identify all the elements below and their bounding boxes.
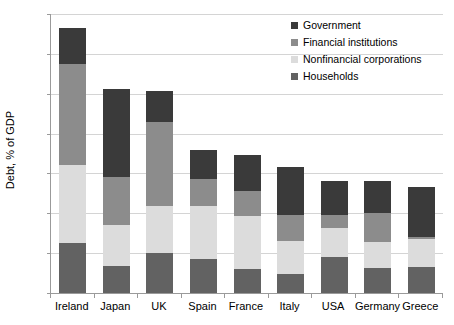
- bar-segment[interactable]: [408, 267, 435, 293]
- legend-label: Financial institutions: [303, 37, 398, 48]
- bar-group[interactable]: [146, 14, 173, 293]
- legend-swatch-icon: [291, 39, 298, 46]
- bar-segment[interactable]: [321, 215, 348, 229]
- bar-segment[interactable]: [277, 215, 304, 241]
- bar-segment[interactable]: [59, 28, 86, 64]
- bar-segment[interactable]: [146, 206, 173, 253]
- bar-segment[interactable]: [59, 165, 86, 243]
- x-axis-label: France: [224, 300, 268, 312]
- bar-segment[interactable]: [190, 206, 217, 259]
- bar-group[interactable]: [59, 14, 86, 293]
- bar-stack: [146, 91, 173, 293]
- bar-segment[interactable]: [190, 150, 217, 180]
- x-tick-mark: [311, 294, 312, 298]
- legend-item[interactable]: Government: [291, 17, 441, 33]
- bar-segment[interactable]: [277, 241, 304, 274]
- bar-stack: [59, 28, 86, 293]
- bar-segment[interactable]: [103, 177, 130, 225]
- x-tick-mark: [355, 294, 356, 298]
- bar-segment[interactable]: [146, 91, 173, 122]
- bar-segment[interactable]: [321, 181, 348, 214]
- x-axis-label: Greece: [398, 300, 442, 312]
- bar-segment[interactable]: [234, 155, 261, 191]
- bar-stack: [277, 167, 304, 293]
- bar-segment[interactable]: [234, 216, 261, 269]
- bar-segment[interactable]: [103, 89, 130, 178]
- bar-segment[interactable]: [234, 269, 261, 293]
- bar-segment[interactable]: [234, 191, 261, 216]
- legend-swatch-icon: [291, 56, 298, 63]
- bar-segment[interactable]: [364, 268, 391, 293]
- bar-group[interactable]: [103, 14, 130, 293]
- legend-label: Government: [303, 20, 361, 31]
- legend-item[interactable]: Nonfinancial corporations: [291, 51, 441, 67]
- x-tick-mark: [181, 294, 182, 298]
- bar-stack: [408, 187, 435, 293]
- x-tick-mark: [224, 294, 225, 298]
- bar-segment[interactable]: [103, 225, 130, 266]
- x-tick-mark: [137, 294, 138, 298]
- legend-item[interactable]: Households: [291, 68, 441, 84]
- x-axis-label: Italy: [268, 300, 312, 312]
- legend-label: Households: [303, 71, 358, 82]
- bar-segment[interactable]: [103, 266, 130, 293]
- bar-segment[interactable]: [146, 253, 173, 293]
- bar-stack: [190, 150, 217, 293]
- bar-segment[interactable]: [408, 187, 435, 237]
- bar-segment[interactable]: [364, 213, 391, 243]
- x-axis-labels: IrelandJapanUKSpainFranceItalyUSAGermany…: [50, 300, 442, 320]
- x-axis-label: Spain: [181, 300, 225, 312]
- bar-segment[interactable]: [364, 181, 391, 212]
- x-tick-mark: [398, 294, 399, 298]
- legend-label: Nonfinancial corporations: [303, 54, 421, 65]
- bar-stack: [234, 155, 261, 293]
- x-axis-label: USA: [311, 300, 355, 312]
- bar-stack: [364, 181, 391, 293]
- x-tick-mark: [268, 294, 269, 298]
- bar-segment[interactable]: [59, 243, 86, 293]
- bar-segment[interactable]: [146, 122, 173, 205]
- bar-segment[interactable]: [364, 242, 391, 268]
- bar-segment[interactable]: [59, 64, 86, 166]
- legend: GovernmentFinancial institutionsNonfinan…: [291, 17, 441, 85]
- x-axis-label: Germany: [355, 300, 399, 312]
- legend-item[interactable]: Financial institutions: [291, 34, 441, 50]
- bar-segment[interactable]: [408, 239, 435, 267]
- y-axis-title-label: Debt, % of GDP: [4, 111, 16, 189]
- bar-stack: [321, 181, 348, 293]
- x-axis-label: Ireland: [50, 300, 94, 312]
- bar-stack: [103, 89, 130, 293]
- x-tick-mark: [442, 294, 443, 298]
- bar-segment[interactable]: [190, 259, 217, 293]
- bar-group[interactable]: [190, 14, 217, 293]
- bar-group[interactable]: [234, 14, 261, 293]
- legend-swatch-icon: [291, 73, 298, 80]
- bar-segment[interactable]: [277, 274, 304, 293]
- y-axis-title: Debt, % of GDP: [0, 0, 20, 300]
- legend-swatch-icon: [291, 22, 298, 29]
- x-tick-mark: [50, 294, 51, 298]
- bar-segment[interactable]: [321, 257, 348, 293]
- stacked-bar-chart: Debt, % of GDP 0100200300400500600700 Ir…: [0, 0, 454, 325]
- bar-segment[interactable]: [190, 179, 217, 206]
- bar-segment[interactable]: [321, 228, 348, 257]
- bar-segment[interactable]: [277, 167, 304, 214]
- x-tick-mark: [94, 294, 95, 298]
- x-axis-label: Japan: [94, 300, 138, 312]
- x-axis-label: UK: [137, 300, 181, 312]
